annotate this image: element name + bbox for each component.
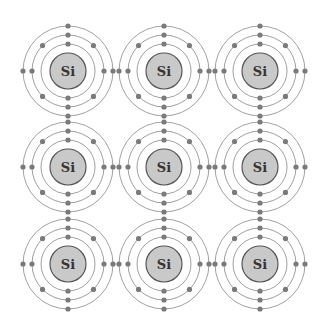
electron-dot bbox=[257, 306, 262, 311]
electron-dot bbox=[136, 190, 141, 195]
electron-dot bbox=[161, 306, 166, 311]
electron-dot bbox=[101, 261, 106, 266]
electron-dot bbox=[125, 164, 130, 169]
electron-dot bbox=[221, 261, 226, 266]
electron-dot bbox=[302, 261, 307, 266]
electron-dot bbox=[65, 209, 70, 214]
electron-dot bbox=[116, 261, 121, 266]
electron-dot bbox=[187, 43, 192, 48]
electron-dot bbox=[40, 139, 45, 144]
electron-dot bbox=[91, 94, 96, 99]
electron-dot bbox=[91, 236, 96, 241]
electron-dot bbox=[116, 164, 121, 169]
electron-dot bbox=[91, 287, 96, 292]
atom-label: Si bbox=[61, 257, 75, 272]
atom-label: Si bbox=[253, 257, 267, 272]
electron-dot bbox=[91, 43, 96, 48]
electron-dot bbox=[257, 23, 262, 28]
electron-dot bbox=[91, 190, 96, 195]
electron-dot bbox=[232, 94, 237, 99]
atom-label: Si bbox=[61, 64, 75, 79]
electron-dot bbox=[136, 236, 141, 241]
electron-dot bbox=[65, 191, 70, 196]
electron-dot bbox=[206, 164, 211, 169]
electron-dot bbox=[257, 225, 262, 230]
silicon-atom: Si bbox=[116, 119, 211, 214]
electron-dot bbox=[161, 234, 166, 239]
electron-dot bbox=[65, 128, 70, 133]
electron-dot bbox=[65, 137, 70, 142]
electron-dot bbox=[257, 95, 262, 100]
atom-label: Si bbox=[253, 160, 267, 175]
electron-dot bbox=[125, 68, 130, 73]
electron-dot bbox=[161, 32, 166, 37]
electron-dot bbox=[161, 209, 166, 214]
electron-dot bbox=[187, 190, 192, 195]
electron-dot bbox=[65, 41, 70, 46]
electron-dot bbox=[232, 190, 237, 195]
electron-dot bbox=[65, 234, 70, 239]
electron-dot bbox=[212, 261, 217, 266]
electron-dot bbox=[206, 68, 211, 73]
electron-dot bbox=[29, 261, 34, 266]
electron-dot bbox=[197, 164, 202, 169]
electron-dot bbox=[65, 23, 70, 28]
electron-dot bbox=[283, 43, 288, 48]
electron-dot bbox=[161, 23, 166, 28]
electron-dot bbox=[257, 113, 262, 118]
atom-label: Si bbox=[157, 64, 171, 79]
electron-dot bbox=[101, 68, 106, 73]
electron-dot bbox=[221, 68, 226, 73]
silicon-atom: Si bbox=[212, 23, 307, 118]
electron-dot bbox=[187, 236, 192, 241]
electron-dot bbox=[65, 32, 70, 37]
electron-dot bbox=[136, 43, 141, 48]
electron-dot bbox=[161, 95, 166, 100]
electron-dot bbox=[232, 139, 237, 144]
electron-dot bbox=[125, 261, 130, 266]
electron-dot bbox=[20, 68, 25, 73]
electron-dot bbox=[161, 225, 166, 230]
electron-dot bbox=[161, 41, 166, 46]
electron-dot bbox=[65, 306, 70, 311]
electron-dot bbox=[161, 137, 166, 142]
electron-dot bbox=[161, 216, 166, 221]
lattice-canvas: SiSiSiSiSiSiSiSiSi bbox=[0, 0, 327, 331]
electron-dot bbox=[257, 119, 262, 124]
electron-dot bbox=[161, 119, 166, 124]
silicon-atom: Si bbox=[20, 23, 115, 118]
electron-dot bbox=[65, 200, 70, 205]
electron-dot bbox=[65, 113, 70, 118]
electron-dot bbox=[65, 288, 70, 293]
electron-dot bbox=[257, 32, 262, 37]
electron-dot bbox=[116, 68, 121, 73]
electron-dot bbox=[257, 191, 262, 196]
electron-dot bbox=[91, 139, 96, 144]
atom-label: Si bbox=[61, 160, 75, 175]
silicon-atom: Si bbox=[20, 216, 115, 311]
electron-dot bbox=[232, 236, 237, 241]
electron-dot bbox=[257, 137, 262, 142]
electron-dot bbox=[136, 139, 141, 144]
electron-dot bbox=[161, 288, 166, 293]
electron-dot bbox=[65, 95, 70, 100]
electron-dot bbox=[232, 287, 237, 292]
atom-label: Si bbox=[157, 160, 171, 175]
atom-label: Si bbox=[253, 64, 267, 79]
atom-label: Si bbox=[157, 257, 171, 272]
silicon-atom: Si bbox=[116, 23, 211, 118]
electron-dot bbox=[187, 287, 192, 292]
electron-dot bbox=[20, 261, 25, 266]
electron-dot bbox=[293, 68, 298, 73]
electron-dot bbox=[161, 297, 166, 302]
electron-dot bbox=[110, 164, 115, 169]
electron-dot bbox=[65, 225, 70, 230]
electron-dot bbox=[161, 104, 166, 109]
electron-dot bbox=[161, 200, 166, 205]
electron-dot bbox=[110, 68, 115, 73]
electron-dot bbox=[283, 139, 288, 144]
electron-dot bbox=[257, 128, 262, 133]
electron-dot bbox=[65, 297, 70, 302]
electron-dot bbox=[206, 261, 211, 266]
electron-dot bbox=[40, 43, 45, 48]
